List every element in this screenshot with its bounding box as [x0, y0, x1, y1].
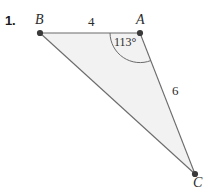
- angle-measure-label-a: 113°: [114, 36, 136, 48]
- vertex-point-a: [137, 30, 143, 36]
- triangle-diagram: [0, 0, 213, 190]
- vertex-label-c: C: [193, 176, 202, 190]
- problem-number: 1.: [5, 14, 15, 27]
- side-length-label-ac: 6: [172, 84, 179, 97]
- vertex-point-b: [37, 30, 43, 36]
- geometry-figure: 1. B A C 4 6 113°: [0, 0, 213, 190]
- vertex-label-b: B: [35, 13, 44, 27]
- vertex-label-a: A: [136, 13, 145, 27]
- side-length-label-ba: 4: [88, 15, 95, 28]
